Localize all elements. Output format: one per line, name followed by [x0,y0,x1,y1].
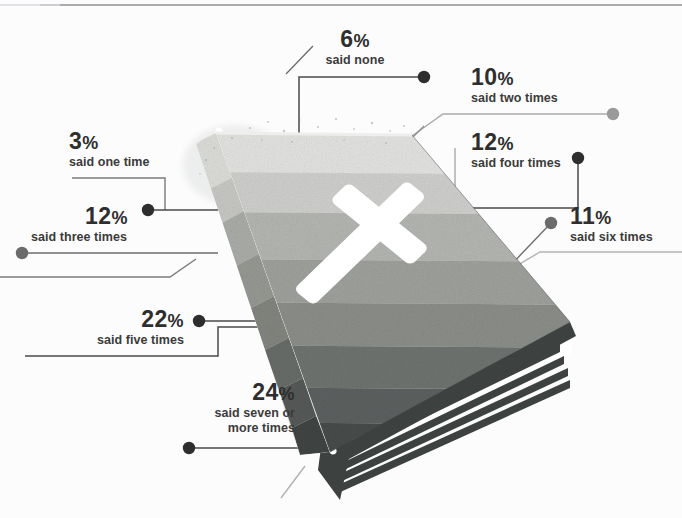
value-said-four-times: 12% [471,131,646,154]
infographic-canvas: 6% said none 3% said one time 10% said t… [0,0,682,518]
label-said-one-time: 3% said one time [69,130,209,170]
book-group [150,114,600,518]
caption-said-seven-or-more-line1: said seven or [145,406,295,421]
label-said-four-times: 12% said four times [471,131,646,171]
label-said-three-times: 12% said three times [0,205,139,245]
label-said-seven-or-more-times: 24% said seven or more times [145,381,295,437]
label-said-two-times: 10% said two times [471,66,631,106]
value-said-seven-or-more-times: 24% [145,381,295,404]
value-said-five-times: 22% [34,308,184,331]
label-said-none: 6% said none [300,28,410,68]
cover-top-edge [216,133,412,135]
value-said-two-times: 10% [471,66,631,89]
caption-said-two-times: said two times [471,91,631,106]
caption-said-none: said none [300,53,410,68]
label-said-five-times: 22% said five times [34,308,184,348]
value-said-six-times: 11% [570,205,682,228]
caption-said-seven-or-more-line2: more times [145,421,295,436]
value-said-one-time: 3% [69,130,209,153]
label-said-six-times: 11% said six times [570,205,682,245]
caption-said-five-times: said five times [34,333,184,348]
caption-said-one-time: said one time [69,155,209,170]
caption-said-four-times: said four times [471,156,646,171]
value-said-three-times: 12% [0,205,139,228]
caption-said-three-times: said three times [0,230,139,245]
caption-said-six-times: said six times [570,230,682,245]
value-said-none: 6% [300,28,410,51]
